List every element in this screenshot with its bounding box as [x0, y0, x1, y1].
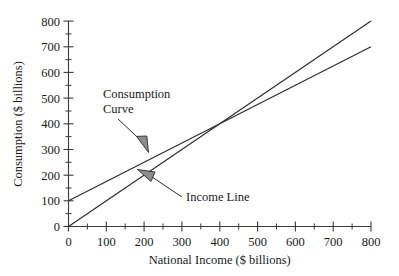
y-tick-label: 0: [54, 220, 60, 234]
x-tick-label: 500: [248, 235, 267, 249]
chart-figure: 0 100 200 300 400 500 600 700 800 0 100 …: [0, 0, 399, 276]
x-tick-label: 600: [286, 235, 305, 249]
x-tick-label: 200: [135, 235, 154, 249]
x-axis-title: National Income ($ billions): [149, 253, 291, 267]
annotation-income-line: Income Line: [138, 170, 250, 205]
annotation-income-label: Income Line: [186, 190, 250, 204]
y-tick-label: 500: [41, 92, 60, 106]
x-tick-label: 700: [324, 235, 343, 249]
y-tick-label: 800: [41, 15, 60, 29]
annotation-consumption-curve: Consumption Curve: [103, 87, 171, 153]
y-tick-label: 700: [41, 40, 60, 54]
x-axis-tick-labels: 0 100 200 300 400 500 600 700 800: [65, 235, 380, 249]
x-tick-label: 100: [97, 235, 116, 249]
annotation-income-arrowhead: [138, 170, 156, 182]
x-tick-label: 400: [210, 235, 229, 249]
x-tick-label: 300: [173, 235, 192, 249]
annotation-income-leader: [152, 177, 182, 197]
y-tick-label: 300: [41, 143, 60, 157]
y-tick-label: 100: [41, 194, 60, 208]
chart-canvas: 0 100 200 300 400 500 600 700 800 0 100 …: [0, 0, 399, 276]
annotation-consumption-arrowhead: [137, 136, 149, 153]
y-tick-label: 200: [41, 169, 60, 183]
x-tick-label: 800: [362, 235, 381, 249]
series-consumption-curve: [69, 47, 372, 201]
y-axis-tick-labels: 0 100 200 300 400 500 600 700 800: [41, 15, 60, 234]
y-tick-label: 400: [41, 117, 60, 131]
annotation-consumption-label-line1: Consumption: [103, 87, 171, 101]
x-tick-label: 0: [65, 235, 71, 249]
y-tick-label: 600: [41, 66, 60, 80]
y-axis-title: Consumption ($ billions): [11, 61, 25, 187]
annotation-consumption-label-line2: Curve: [103, 102, 134, 116]
